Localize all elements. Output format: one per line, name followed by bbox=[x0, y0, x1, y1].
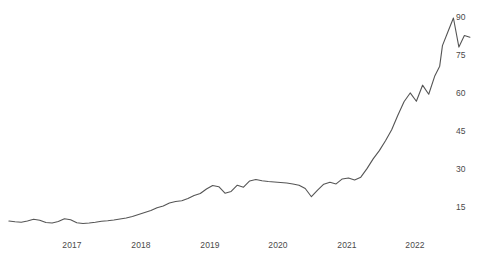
y-tick-label: 30 bbox=[456, 164, 466, 174]
y-tick-label: 75 bbox=[456, 50, 466, 60]
y-tick-label: 15 bbox=[456, 202, 466, 212]
y-tick-label: 90 bbox=[456, 12, 466, 22]
y-tick-label: 60 bbox=[456, 88, 466, 98]
x-tick-label: 2019 bbox=[200, 240, 219, 250]
x-tick-label: 2018 bbox=[131, 240, 150, 250]
y-tick-label: 45 bbox=[456, 126, 466, 136]
x-tick-label: 2017 bbox=[62, 240, 81, 250]
x-tick-label: 2022 bbox=[405, 240, 424, 250]
x-tick-label: 2021 bbox=[337, 240, 356, 250]
chart-plot-area bbox=[0, 0, 492, 262]
x-tick-label: 2020 bbox=[268, 240, 287, 250]
series-line bbox=[9, 18, 470, 224]
line-chart: 907560453015 201720182019202020212022 bbox=[0, 0, 492, 262]
